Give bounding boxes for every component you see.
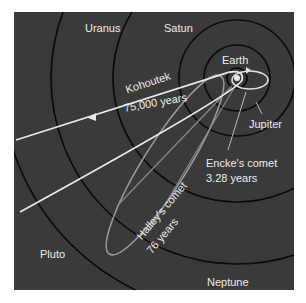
encke-arrow-icon [246,67,251,74]
sun-icon [234,75,240,81]
label-encke-period: 3.28 years [206,172,257,185]
diagram-panel: Uranus Satun Earth Jupiter Pluto Neptune… [14,12,294,290]
encke-leader-line [228,92,246,150]
label-saturn: Satun [164,22,193,35]
label-neptune: Neptune [207,276,249,289]
label-earth: Earth [222,54,248,67]
label-uranus: Uranus [85,22,120,35]
jupiter-leader-line [256,102,262,114]
label-pluto: Pluto [40,248,65,261]
label-jupiter: Jupiter [249,118,282,131]
label-encke: Encke's comet [206,157,277,170]
